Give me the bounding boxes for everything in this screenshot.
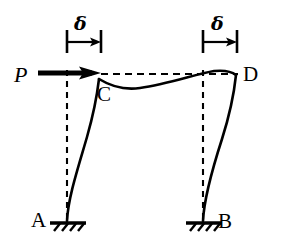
load-label-p: P <box>14 64 27 86</box>
sway-label-delta-right: δ <box>211 14 224 33</box>
support-a-fixed <box>50 223 86 231</box>
sway-label-delta-left: δ <box>74 14 87 33</box>
frame-deflection-diagram: P C D A B δ δ <box>0 0 284 250</box>
joint-label-c: C <box>97 84 111 105</box>
column-bd-member <box>203 75 236 221</box>
support-label-b: B <box>218 211 232 232</box>
joint-label-d: D <box>243 64 258 85</box>
deflected-frame-group <box>67 71 236 221</box>
support-label-a: A <box>31 210 46 231</box>
load-arrow-p <box>38 67 101 80</box>
undeformed-reference-group <box>67 70 238 221</box>
support-b-fixed <box>186 223 222 231</box>
column-ac-member <box>67 79 99 221</box>
